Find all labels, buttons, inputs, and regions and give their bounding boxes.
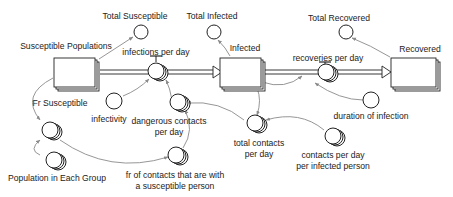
aux-total-susceptible[interactable] [134, 25, 148, 39]
stock-recovered[interactable] [391, 58, 440, 91]
label-dangerous-contacts-line1: dangerous contacts [131, 116, 206, 126]
label-infections-per-day: infections per day [122, 47, 190, 57]
label-susceptible-populations: Susceptible Populations [20, 41, 112, 51]
label-recovered: Recovered [399, 44, 441, 54]
label-fr-contacts-line2: a susceptible person [136, 181, 215, 191]
stock-infected[interactable] [220, 58, 265, 91]
aux-fr-susceptible[interactable] [42, 122, 62, 140]
label-infectivity: infectivity [91, 114, 127, 124]
label-duration-of-infection: duration of infection [333, 111, 408, 121]
label-contacts-per-infected-line2: per infected person [296, 161, 370, 171]
label-dangerous-contacts-line2: per day [155, 127, 184, 137]
label-total-contacts-line1: total contacts [234, 138, 285, 148]
aux-contacts-per-day-per-infected-person[interactable] [325, 128, 345, 146]
link-infectivity-to-infections [123, 79, 149, 96]
label-infected: Infected [230, 43, 261, 53]
label-total-contacts-line2: per day [245, 149, 274, 159]
aux-duration-of-infection[interactable] [363, 92, 379, 108]
link-fr-susceptible-to-fr-contacts [60, 140, 168, 163]
link-infected-to-total-infected [218, 40, 230, 56]
label-fr-susceptible: Fr Susceptible [33, 98, 88, 108]
aux-total-recovered[interactable] [339, 25, 353, 39]
aux-fr-of-contacts-susceptible[interactable] [168, 147, 188, 165]
aux-dangerous-contacts-per-day[interactable] [170, 94, 190, 112]
aux-total-contacts-per-day[interactable] [247, 115, 267, 133]
label-population-in-each-group: Population in Each Group [8, 173, 106, 183]
link-contacts-per-infected-to-total-contacts [266, 117, 324, 130]
aux-infectivity[interactable] [106, 93, 122, 109]
valve-recoveries-per-day[interactable] [318, 62, 338, 82]
label-total-susceptible: Total Susceptible [103, 11, 168, 21]
label-fr-contacts-line1: fr of contacts that are with [126, 170, 225, 180]
link-infected-to-total-contacts [257, 88, 260, 115]
link-infected-to-recoveries [262, 76, 302, 85]
link-dangerous-contacts-to-infections [166, 80, 172, 100]
stock-susceptible-populations[interactable] [54, 58, 99, 91]
flow-arrow-recoveries [382, 66, 391, 78]
valve-infections-per-day[interactable] [148, 56, 168, 81]
link-duration-to-recoveries [315, 83, 363, 100]
link-population-to-fr-susceptible [34, 140, 40, 155]
label-total-recovered: Total Recovered [308, 13, 370, 23]
label-contacts-per-infected-line1: contacts per day [301, 150, 365, 160]
label-recoveries-per-day: recoveries per day [293, 53, 364, 63]
aux-total-infected[interactable] [207, 25, 221, 39]
stock-flow-diagram: Susceptible Populations Infected Recover… [0, 0, 453, 197]
aux-population-in-each-group[interactable] [46, 152, 66, 170]
label-total-infected: Total Infected [186, 11, 237, 21]
